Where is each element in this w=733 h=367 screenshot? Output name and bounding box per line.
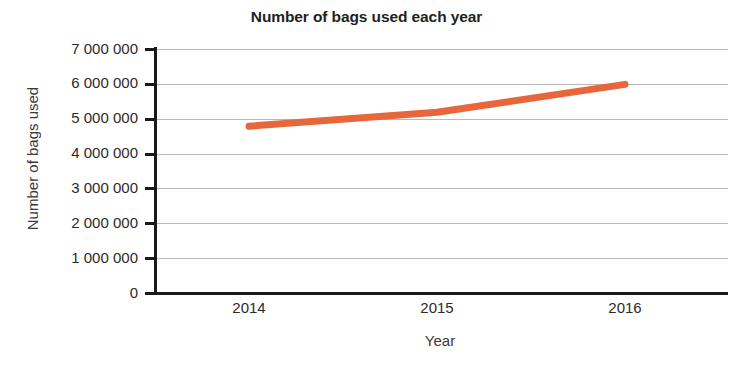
y-axis-spine	[154, 47, 157, 295]
x-tick-label-2014: 2014	[204, 299, 294, 316]
y-tick-label-text: 6 000 000	[26, 74, 138, 91]
y-tick-label-text: 0	[26, 284, 138, 301]
x-tick-label-2015: 2015	[392, 299, 482, 316]
gridline	[157, 119, 728, 120]
gridline	[157, 84, 728, 85]
gridline	[157, 188, 728, 189]
y-tick-label-text: 5 000 000	[26, 109, 138, 126]
chart-title: Number of bags used each year	[0, 8, 733, 26]
gridline	[157, 223, 728, 224]
x-axis-spine	[154, 292, 728, 295]
gridline	[157, 49, 728, 50]
series-line-number-of-bags-used	[249, 84, 625, 126]
y-tick-label-text: 4 000 000	[26, 144, 138, 161]
y-tick-label-text: 7 000 000	[26, 40, 138, 57]
y-tick-label-text: 3 000 000	[26, 179, 138, 196]
gridline	[157, 258, 728, 259]
y-tick-label-text: 1 000 000	[26, 249, 138, 266]
gridline	[157, 154, 728, 155]
x-axis-title: Year	[150, 332, 730, 349]
x-tick-label-2016: 2016	[580, 299, 670, 316]
y-tick-label-text: 2 000 000	[26, 214, 138, 231]
chart-screenshot: Number of bags used each year Number of …	[0, 0, 733, 367]
